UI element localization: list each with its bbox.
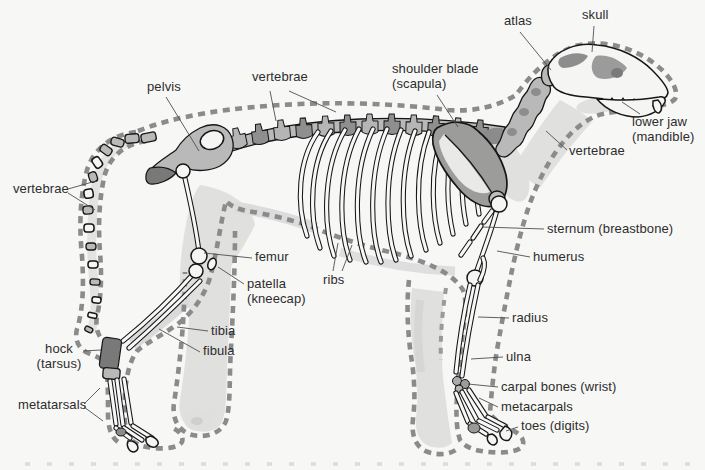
leader-atlas [520,32,551,70]
label-pelvis: pelvis [147,80,181,95]
outline-tail-inner [96,141,146,342]
label-patella: patella(kneecap) [247,277,306,306]
label-humerus: humerus [533,250,584,265]
label-femur: femur [255,250,289,265]
leader-ulna [471,357,503,359]
label-toes: toes (digits) [521,419,590,434]
label-skull: skull [582,8,609,23]
label-lower-jaw: lower jaw(mandible) [632,115,694,144]
label-atlas: atlas [504,14,532,29]
leader-radius [478,317,509,318]
label-ribs: ribs [323,273,344,288]
label-vertebrae-tail: vertebrae [13,182,69,197]
label-ulna: ulna [506,350,531,365]
label-vertebrae-back: vertebrae [252,70,308,85]
label-carpal-bones: carpal bones (wrist) [501,380,616,395]
label-vertebrae-neck: vertebrae [569,144,625,159]
humerus-bone [467,196,507,286]
pelvis-bone [146,125,233,184]
body-shading [91,94,625,448]
label-metatarsals: metatarsals [18,398,86,413]
dog-skeleton-diagram: vertebrae pelvis vertebrae shoulder blad… [0,0,705,470]
label-hock: hock(tarsus) [33,342,85,371]
label-sternum: sternum (breastbone) [547,222,673,237]
leader-metatarsals [84,388,103,421]
label-shoulder-blade: shoulder blade(scapula) [392,62,479,91]
label-fibula: fibula [203,344,235,359]
label-tibia: tibia [211,324,235,339]
label-metacarpals: metacarpals [501,400,573,415]
label-radius: radius [512,311,548,326]
